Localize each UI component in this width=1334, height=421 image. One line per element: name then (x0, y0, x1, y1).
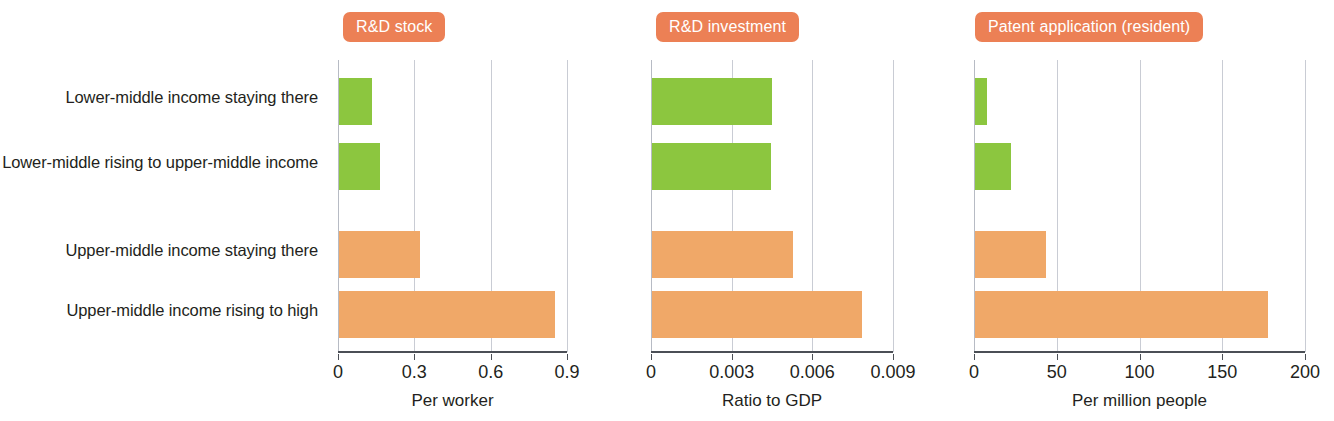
bar (652, 143, 771, 190)
x-axis-tick (414, 354, 415, 360)
category-label: Lower-middle income staying there (0, 88, 318, 106)
x-axis-tick (651, 354, 652, 360)
x-axis-tick (893, 354, 894, 360)
gridline (1305, 60, 1306, 352)
plot-area (338, 60, 567, 352)
bar (975, 78, 987, 125)
gridline (567, 60, 568, 352)
x-axis-tick-label: 0.9 (554, 362, 579, 382)
x-axis-tick (974, 354, 975, 360)
x-axis-tick (567, 354, 568, 360)
x-axis-tick-label: 0 (646, 362, 656, 382)
panel-title-badge: Patent application (resident) (975, 12, 1203, 42)
x-axis-tick-label: 0.009 (870, 362, 915, 382)
plot-area (651, 60, 893, 352)
panel-title-badge: R&D investment (656, 12, 799, 42)
x-axis-tick-label: 50 (1047, 362, 1067, 382)
category-label: Lower-middle rising to upper-middle inco… (0, 153, 318, 171)
x-axis-tick-label: 200 (1290, 362, 1320, 382)
x-axis-tick (732, 354, 733, 360)
bar (339, 231, 420, 278)
x-axis-tick-label: 0 (969, 362, 979, 382)
bar (975, 143, 1011, 190)
x-axis-tick-label: 0.3 (402, 362, 427, 382)
gridline (893, 60, 894, 352)
x-axis-tick (812, 354, 813, 360)
panel-title-badge: R&D stock (343, 12, 445, 42)
x-axis-tick-label: 150 (1207, 362, 1237, 382)
x-axis-tick (491, 354, 492, 360)
category-label: Upper-middle income staying there (0, 241, 318, 259)
bar (652, 291, 862, 338)
x-axis-line (338, 351, 567, 353)
x-axis-tick-label: 0.6 (478, 362, 503, 382)
bar (652, 231, 793, 278)
x-axis-tick (338, 354, 339, 360)
x-axis-tick (1057, 354, 1058, 360)
bar (339, 78, 372, 125)
x-axis-caption: Per worker (411, 391, 493, 411)
x-axis-tick (1305, 354, 1306, 360)
bar (975, 231, 1046, 278)
x-axis-caption: Ratio to GDP (722, 391, 822, 411)
x-axis-tick (1222, 354, 1223, 360)
x-axis-tick-label: 0.006 (790, 362, 835, 382)
category-label-column: Lower-middle income staying thereLower-m… (0, 55, 322, 355)
plot-area (974, 60, 1305, 352)
bar (339, 143, 380, 190)
category-label: Upper-middle income rising to high (0, 301, 318, 319)
x-axis-tick-label: 0 (333, 362, 343, 382)
bar (339, 291, 555, 338)
x-axis-line (974, 351, 1305, 353)
x-axis-tick (1140, 354, 1141, 360)
x-axis-tick-label: 100 (1124, 362, 1154, 382)
x-axis-line (651, 351, 893, 353)
bar (652, 78, 772, 125)
bar (975, 291, 1268, 338)
x-axis-caption: Per million people (1072, 391, 1207, 411)
x-axis-tick-label: 0.003 (709, 362, 754, 382)
